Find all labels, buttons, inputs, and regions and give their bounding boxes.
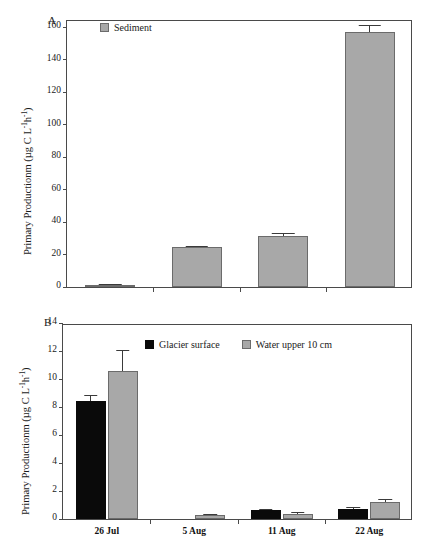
legend-entry-sediment: Sediment — [100, 22, 152, 33]
y-tick-mark — [63, 222, 67, 223]
y-tick-label: 12 — [48, 344, 58, 354]
panel-b: B Primary Productionm (µg C L-1h-1) 0246… — [0, 300, 424, 556]
legend-swatch-icon — [242, 340, 251, 349]
y-tick-mark — [59, 351, 63, 352]
y-tick-label: 10 — [48, 372, 58, 382]
bar-water-upper-10-cm-0 — [108, 371, 138, 519]
x-tick-mark — [150, 519, 151, 524]
bar-glacier-surface-2 — [251, 510, 281, 519]
panel-b-legend: Glacier surfaceWater upper 10 cm — [145, 339, 332, 350]
y-tick-mark — [59, 323, 63, 324]
error-bar-cap — [204, 514, 218, 515]
y-tick-label: 20 — [52, 248, 62, 258]
error-bar-cap — [99, 284, 122, 285]
y-tick-label: 0 — [56, 280, 61, 290]
legend-entry-glacier-surface: Glacier surface — [145, 339, 220, 350]
y-tick-mark — [59, 519, 63, 520]
y-tick-mark — [63, 27, 67, 28]
legend-label: Water upper 10 cm — [256, 339, 332, 350]
y-tick-mark — [63, 157, 67, 158]
figure-primary-production: A Primary Productionm (µg C L-1h-1) 0204… — [0, 0, 424, 556]
y-tick-mark — [59, 463, 63, 464]
error-bar-cap — [272, 233, 295, 234]
bar-sediment-2 — [258, 236, 308, 287]
error-bar-stem — [122, 350, 123, 371]
bar-glacier-surface-0 — [76, 401, 106, 519]
error-bar-stem — [369, 25, 370, 32]
error-bar-cap — [116, 350, 130, 351]
x-tick-mark — [325, 519, 326, 524]
panel-b-plot-area: 02468101214 26 Jul5 Aug11 Aug22 Aug — [62, 324, 412, 520]
y-tick-label: 4 — [52, 456, 57, 466]
y-tick-label: 160 — [47, 20, 61, 30]
legend-swatch-icon — [100, 23, 109, 32]
panel-a-y-axis-title: Primary Productionm (µg C L-1h-1) — [22, 107, 33, 255]
error-bar-cap — [379, 499, 393, 500]
legend-swatch-icon — [145, 340, 154, 349]
error-bar-cap — [84, 395, 98, 396]
bar-water-upper-10-cm-2 — [283, 514, 313, 519]
y-tick-label: 40 — [52, 215, 62, 225]
x-tick-label: 26 Jul — [94, 526, 119, 536]
error-bar-cap — [291, 512, 305, 513]
panel-a-legend: Sediment — [100, 22, 152, 33]
legend-label: Glacier surface — [159, 339, 220, 350]
y-tick-label: 8 — [52, 400, 57, 410]
bar-sediment-0 — [85, 285, 135, 287]
y-tick-mark — [59, 407, 63, 408]
y-tick-mark — [59, 379, 63, 380]
y-tick-label: 80 — [52, 150, 62, 160]
bar-sediment-3 — [345, 32, 395, 287]
bar-sediment-1 — [172, 247, 222, 287]
panel-a: A Primary Productionm (µg C L-1h-1) 0204… — [0, 0, 424, 300]
y-tick-mark — [63, 189, 67, 190]
bar-glacier-surface-3 — [338, 509, 368, 519]
error-bar-cap — [359, 25, 382, 26]
y-tick-mark — [63, 124, 67, 125]
legend-entry-water-upper-10-cm: Water upper 10 cm — [242, 339, 332, 350]
legend-label: Sediment — [114, 22, 152, 33]
error-bar-cap — [186, 246, 209, 247]
y-tick-label: 6 — [52, 428, 57, 438]
x-tick-label: 22 Aug — [355, 526, 383, 536]
y-tick-label: 100 — [47, 118, 61, 128]
y-tick-label: 60 — [52, 183, 62, 193]
x-tick-mark — [238, 519, 239, 524]
panel-a-plot-area: 020406080100120140160 — [66, 20, 412, 288]
y-tick-label: 0 — [52, 512, 57, 522]
x-tick-label: 11 Aug — [268, 526, 296, 536]
y-tick-mark — [63, 92, 67, 93]
y-tick-mark — [59, 435, 63, 436]
y-tick-mark — [63, 254, 67, 255]
x-tick-mark — [326, 287, 327, 292]
panel-b-y-axis-title: Primary Productionm (µg C L-1h-1) — [20, 367, 31, 515]
error-bar-cap — [259, 509, 273, 510]
y-tick-mark — [63, 287, 67, 288]
x-tick-mark — [240, 287, 241, 292]
error-bar-cap — [347, 507, 361, 508]
bar-water-upper-10-cm-1 — [195, 515, 225, 519]
y-tick-label: 120 — [47, 85, 61, 95]
x-tick-mark — [153, 287, 154, 292]
y-tick-label: 140 — [47, 53, 61, 63]
y-tick-mark — [59, 491, 63, 492]
y-tick-label: 14 — [48, 316, 58, 326]
x-tick-label: 5 Aug — [183, 526, 207, 536]
y-tick-mark — [63, 59, 67, 60]
y-tick-label: 2 — [52, 484, 57, 494]
bar-water-upper-10-cm-3 — [370, 502, 400, 519]
